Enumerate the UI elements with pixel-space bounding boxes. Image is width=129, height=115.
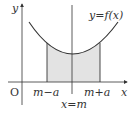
x-axis-label: x xyxy=(121,86,128,99)
diagram-canvas: y x O y=f(x) m−a m+a x=m xyxy=(0,0,129,115)
label-m-minus-a: m−a xyxy=(33,86,59,99)
label-m-plus-a: m+a xyxy=(84,86,110,99)
curve-f xyxy=(29,22,118,54)
curve-label: y=f(x) xyxy=(88,9,123,22)
label-x-equals-m: x=m xyxy=(61,98,87,111)
origin-label: O xyxy=(10,86,19,99)
y-axis-label: y xyxy=(11,2,19,15)
